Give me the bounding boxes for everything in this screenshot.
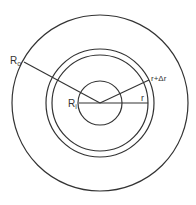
label-R0-sub: o	[17, 60, 21, 67]
label-Ri-sub: i	[75, 103, 77, 110]
label-r: r	[141, 93, 144, 103]
radius-line-R0	[24, 62, 100, 103]
label-R0-main: R	[10, 55, 17, 66]
label-R0: Ro	[10, 55, 21, 67]
diagram-canvas: Ro Ri r r+Δr	[0, 0, 196, 205]
concentric-circles-diagram: Ro Ri r r+Δr	[0, 0, 196, 205]
label-Ri-main: R	[68, 98, 75, 109]
label-Ri: Ri	[68, 98, 77, 110]
label-r-plus-dr: r+Δr	[151, 74, 167, 83]
